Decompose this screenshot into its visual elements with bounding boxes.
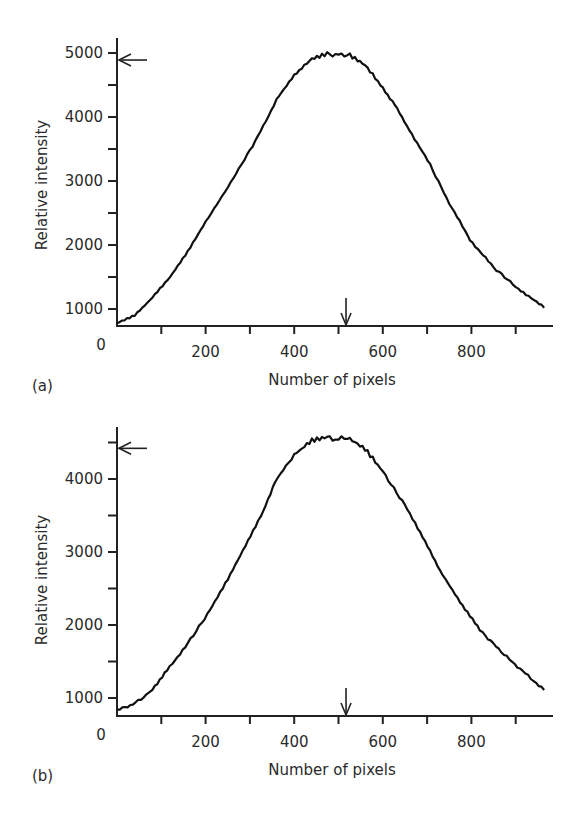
- y-tick-label: 3000: [65, 543, 103, 561]
- y-tick-label: 3000: [65, 172, 103, 190]
- panel-a: 20040060080010002000300040005000 Relativ…: [32, 38, 553, 395]
- markers-b: [119, 442, 351, 715]
- x-axis-label-b: Number of pixels: [268, 761, 396, 779]
- markers-a: [119, 54, 351, 325]
- tick-labels-b: 2004006008001000200030004000: [65, 470, 486, 751]
- panel-label-a: (a): [32, 377, 53, 395]
- peak-position-arrow-icon: [341, 688, 351, 715]
- x-tick-label: 400: [280, 733, 309, 751]
- x-tick-label: 800: [457, 343, 486, 361]
- peak-level-arrow-icon: [119, 54, 147, 66]
- origin-label-b: 0: [96, 726, 106, 744]
- peak-position-arrow-icon: [341, 298, 351, 325]
- y-tick-label: 4000: [65, 470, 103, 488]
- x-tick-label: 800: [457, 733, 486, 751]
- intensity-curve-b: [117, 436, 544, 710]
- intensity-curve-a: [117, 52, 544, 323]
- y-tick-label: 1000: [65, 300, 103, 318]
- panel-label-b: (b): [32, 767, 53, 785]
- ticks-a: [108, 53, 516, 334]
- y-axis-label-b: Relative intensity: [33, 515, 51, 645]
- origin-label-a: 0: [96, 336, 106, 354]
- peak-level-arrow-icon: [119, 442, 147, 454]
- panel-b: 2004006008001000200030004000 Relative in…: [32, 427, 553, 785]
- axes-b: [116, 427, 553, 717]
- chart-canvas: 20040060080010002000300040005000 Relativ…: [0, 0, 585, 814]
- tick-labels-a: 20040060080010002000300040005000: [65, 44, 486, 361]
- x-tick-label: 200: [191, 733, 220, 751]
- y-tick-label: 2000: [65, 616, 103, 634]
- y-tick-label: 2000: [65, 236, 103, 254]
- y-tick-label: 4000: [65, 108, 103, 126]
- ticks-b: [108, 443, 516, 725]
- axes-a: [116, 38, 553, 327]
- x-tick-label: 200: [191, 343, 220, 361]
- x-tick-label: 600: [368, 343, 397, 361]
- x-tick-label: 600: [368, 733, 397, 751]
- x-axis-label-a: Number of pixels: [268, 371, 396, 389]
- y-tick-label: 5000: [65, 44, 103, 62]
- figure: 20040060080010002000300040005000 Relativ…: [0, 0, 585, 814]
- y-axis-label-a: Relative intensity: [33, 120, 51, 250]
- x-tick-label: 400: [280, 343, 309, 361]
- y-tick-label: 1000: [65, 689, 103, 707]
